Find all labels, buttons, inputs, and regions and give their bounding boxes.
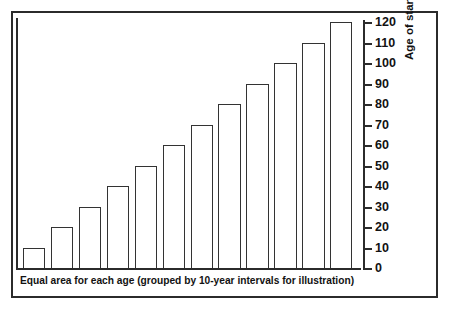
y-axis-tick: [365, 248, 372, 250]
bar: [302, 43, 324, 269]
bar-series: [16, 18, 361, 270]
bar: [330, 22, 352, 268]
y-axis-tick-label: 100: [375, 57, 396, 70]
y-axis-tick: [365, 166, 372, 168]
y-axis-tick: [365, 227, 372, 229]
y-axis-tick-label: 60: [375, 139, 389, 152]
y-axis-title: Age of stand (years): [404, 0, 416, 60]
y-axis-tick: [365, 186, 372, 188]
bar: [218, 104, 240, 268]
bar: [274, 63, 296, 268]
bar: [107, 186, 129, 268]
y-axis-tick-label: 30: [375, 201, 389, 214]
plot-baseline: [16, 268, 361, 270]
y-axis-tick: [365, 43, 372, 45]
y-axis-tick: [365, 125, 372, 127]
y-axis-tick: [365, 145, 372, 147]
plot-area: [16, 18, 361, 270]
bar: [79, 207, 101, 269]
y-axis-tick-label: 20: [375, 221, 389, 234]
bar: [191, 125, 213, 269]
y-axis-tick: [365, 207, 372, 209]
bar: [246, 84, 268, 269]
bar: [135, 166, 157, 269]
y-axis-tick: [365, 84, 372, 86]
y-axis-tick: [365, 268, 372, 270]
y-axis-tick-label: 40: [375, 180, 389, 193]
bar: [23, 248, 45, 269]
y-axis-tick-label: 90: [375, 78, 389, 91]
y-axis-tick-label: 110: [375, 37, 395, 50]
y-axis-tick-label: 120: [375, 16, 396, 29]
figure: 0102030405060708090100110120 Age of stan…: [0, 0, 449, 312]
y-axis-tick: [365, 104, 372, 106]
bar: [163, 145, 185, 268]
y-axis-tick-label: 0: [375, 262, 382, 275]
y-axis-tick: [365, 63, 372, 65]
y-axis-tick-label: 70: [375, 119, 389, 132]
chart-caption: Equal area for each age (grouped by 10-y…: [20, 276, 354, 286]
y-axis-tick-label: 50: [375, 160, 389, 173]
y-axis: 0102030405060708090100110120: [363, 18, 375, 270]
bar: [51, 227, 73, 268]
y-axis-tick-label: 80: [375, 98, 389, 111]
y-axis-tick: [365, 22, 372, 24]
y-axis-tick-label: 10: [375, 242, 389, 255]
